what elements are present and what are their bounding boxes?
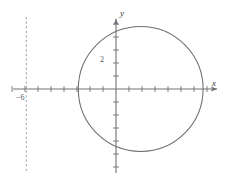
graph-figure: y x 2 −6 (0, 0, 229, 182)
y-tick-label-2: 2 (100, 56, 104, 64)
x-axis-label: x (212, 79, 216, 88)
y-axis-label: y (120, 9, 124, 18)
cartesian-plot (0, 0, 229, 182)
x-tick-label-negative-6: −6 (16, 94, 25, 102)
